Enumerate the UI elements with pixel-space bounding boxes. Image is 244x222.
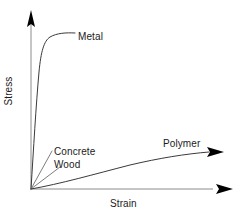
curve-label-metal: Metal bbox=[78, 32, 103, 42]
stress-strain-figure: Metal Polymer Concrete Wood Strain Stres… bbox=[0, 0, 244, 222]
curve-label-polymer: Polymer bbox=[163, 139, 200, 149]
x-axis bbox=[31, 184, 233, 194]
curve-concrete bbox=[31, 151, 52, 189]
y-axis bbox=[27, 10, 35, 189]
figure-canvas bbox=[0, 0, 244, 222]
y-axis-label: Stress bbox=[4, 69, 14, 113]
curve-label-wood: Wood bbox=[54, 160, 80, 170]
x-axis-arrow-icon bbox=[216, 184, 233, 194]
polymer-arrow-icon bbox=[207, 147, 224, 157]
x-axis-label: Strain bbox=[110, 199, 137, 209]
curve-polymer bbox=[31, 152, 209, 189]
curve-label-concrete: Concrete bbox=[54, 147, 95, 157]
